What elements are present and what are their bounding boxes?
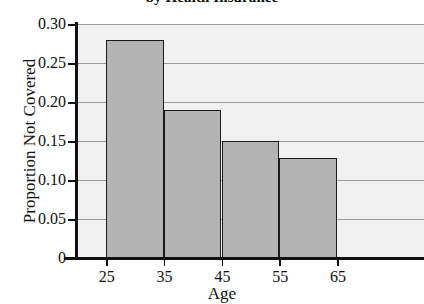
y-tick-label-0-20: 0.20 <box>38 94 66 110</box>
y-tick-0-30 <box>68 24 77 26</box>
x-tick-label-65: 65 <box>318 268 358 285</box>
x-tick-label-45: 45 <box>202 268 242 285</box>
x-tick-55 <box>279 257 281 266</box>
x-axis-title: Age <box>77 285 367 303</box>
x-tick-label-35: 35 <box>145 268 185 285</box>
x-tick-65 <box>337 257 339 266</box>
bar-age-45-55[interactable] <box>222 141 280 258</box>
chart-title-clip: by Health Insurance <box>0 0 424 12</box>
y-tick-0-15 <box>68 141 77 143</box>
x-tick-label-55: 55 <box>260 268 300 285</box>
y-axis-title: Proportion Not Covered <box>20 16 40 266</box>
x-tick-25 <box>106 257 108 266</box>
y-tick-label-0-15: 0.15 <box>38 133 66 149</box>
x-tick-label-25: 25 <box>87 268 127 285</box>
x-axis-line <box>64 257 424 260</box>
y-tick-label-0-10: 0.10 <box>38 172 66 188</box>
y-tick-0-10 <box>68 180 77 182</box>
plot-area <box>77 24 424 258</box>
x-tick-35 <box>164 257 166 266</box>
y-tick-0-20 <box>68 102 77 104</box>
bar-age-35-45[interactable] <box>164 110 222 258</box>
chart-title: by Health Insurance <box>0 0 424 5</box>
y-tick-label-0-30: 0.30 <box>38 16 66 32</box>
y-tick-0 <box>68 258 77 260</box>
y-tick-label-0-05: 0.05 <box>38 211 66 227</box>
x-tick-45 <box>222 257 224 266</box>
bar-age-25-35[interactable] <box>106 40 164 258</box>
gridline-0-30 <box>77 24 424 25</box>
bar-age-55-65[interactable] <box>279 158 337 258</box>
y-tick-label-0: 0 <box>58 250 66 266</box>
y-tick-0-05 <box>68 219 77 221</box>
bar-chart-figure: by Health Insurance Proportion Not Cover… <box>0 0 424 304</box>
y-tick-0-25 <box>68 63 77 65</box>
y-tick-label-0-25: 0.25 <box>38 55 66 71</box>
